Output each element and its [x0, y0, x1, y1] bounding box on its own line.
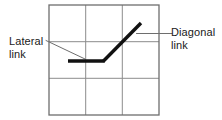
diagonal-link-label-line-2: link	[171, 39, 215, 52]
diagonal-link-label: Diagonal link	[171, 26, 215, 51]
lateral-link-label-line-1: Lateral	[9, 35, 43, 47]
lateral-link-label-line-2: link	[9, 48, 43, 61]
lateral-link-label: Lateral link	[9, 35, 43, 60]
diagonal-link-label-line-1: Diagonal	[171, 26, 215, 38]
diagram-canvas	[0, 0, 222, 120]
link-diagram-figure: Lateral link Diagonal link	[0, 0, 222, 120]
